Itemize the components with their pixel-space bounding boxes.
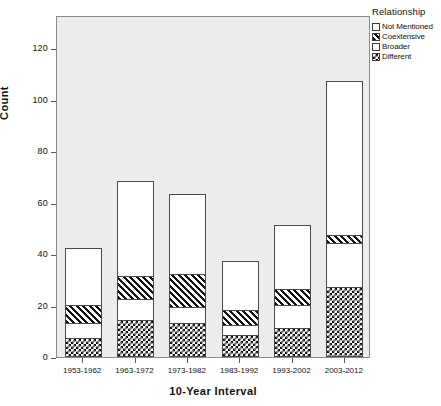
x-axis-label: 10-Year Interval (56, 385, 370, 397)
legend-item-label: Coextensive (382, 32, 425, 41)
legend-item-label: Not Mentioned (382, 22, 433, 31)
legend-title: Relationship (372, 6, 441, 17)
chart-root: Count 020406080100120 1953-19621963-1972… (0, 0, 441, 406)
legend-item-different[interactable]: Different (372, 52, 441, 61)
x-tick-mark (82, 358, 83, 363)
legend-items: Not MentionedCoextensiveBroaderDifferent (372, 22, 441, 61)
x-tick-mark (344, 358, 345, 363)
x-tick-mark (135, 358, 136, 363)
x-tick-mark (187, 358, 188, 363)
legend: Relationship Not MentionedCoextensiveBro… (372, 6, 441, 62)
legend-item-label: Different (382, 52, 411, 61)
x-tick-label: 1953-1962 (56, 366, 108, 375)
legend-item-broader[interactable]: Broader (372, 42, 441, 51)
legend-item-not-mentioned[interactable]: Not Mentioned (372, 22, 441, 31)
x-tick-label: 1983-1992 (213, 366, 265, 375)
legend-item-coextensive[interactable]: Coextensive (372, 32, 441, 41)
legend-swatch-icon (372, 23, 380, 31)
x-tick-mark (239, 358, 240, 363)
legend-swatch-icon (372, 43, 380, 51)
legend-item-label: Broader (382, 42, 410, 51)
x-tick-label: 2003-2012 (318, 366, 370, 375)
x-tick-label: 1973-1982 (161, 366, 213, 375)
legend-swatch-icon (372, 53, 380, 61)
x-tick-mark (292, 358, 293, 363)
x-tick-label: 1993-2002 (266, 366, 318, 375)
x-tick-label: 1963-1972 (109, 366, 161, 375)
legend-swatch-icon (372, 33, 380, 41)
